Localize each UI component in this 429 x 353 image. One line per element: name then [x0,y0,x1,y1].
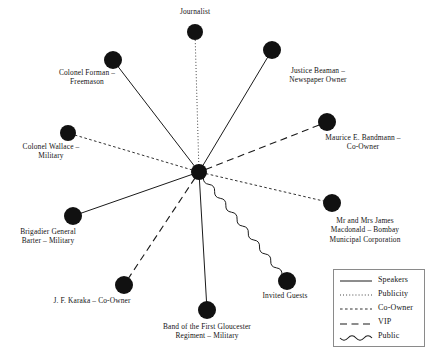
node-label-gloucester-band: Band of the First Gloucester Regiment – … [127,322,287,341]
node-label-colonel-wallace: Colonel Wallace – Military [0,142,104,161]
legend-label: Co-Owner [378,303,413,312]
node-maurice-bandmann[interactable] [318,113,336,131]
legend-line-sample-dotted [339,287,373,299]
network-diagram: JournalistColonel Forman – FreemasonJust… [0,0,429,353]
node-colonel-forman[interactable] [104,51,122,69]
legend-line-sample-solid [339,273,373,285]
legend-label: VIP [378,317,391,326]
edge-gloucester-band [199,179,206,302]
node-colonel-wallace[interactable] [60,125,76,141]
edge-journalist [195,39,199,165]
node-label-maurice-bandmann: Maurice E. Bandmann – Co-Owner [297,133,429,152]
legend-label: Public [378,331,399,340]
legend-line-sample-dashed-fine [339,301,373,313]
node-justice-beaman[interactable] [263,41,281,59]
legend-row-publicity: Publicity [334,286,424,300]
node-label-brigadier-barter: Brigadier General Barter – Military [0,227,101,246]
node-label-jf-karaka: J. F. Karaka – Co-Owner [17,296,167,305]
node-hub[interactable] [191,164,207,180]
node-brigadier-barter[interactable] [64,207,82,225]
node-label-invited-guests: Invited Guests [230,291,340,300]
node-label-james-macdonald: Mr and Mrs James Macdonald – Bombay Muni… [301,216,429,244]
legend-row-co-owner: Co-Owner [334,300,424,314]
legend-row-public: Public [334,329,424,343]
node-journalist[interactable] [187,24,203,40]
node-label-colonel-forman: Colonel Forman – Freemason [32,68,142,87]
node-jf-karaka[interactable] [115,276,133,294]
legend-row-vip: VIP [334,315,424,329]
legend-line-sample-dashed-long [339,316,373,328]
legend-line-sample-wavy [339,330,373,342]
node-label-journalist: Journalist [135,7,255,16]
legend-row-speakers: Speakers [334,272,424,286]
legend-label: Publicity [378,289,408,298]
node-invited-guests[interactable] [278,272,296,290]
node-label-justice-beaman: Justice Beaman – Newspaper Owner [258,66,378,85]
legend-label: Speakers [378,275,408,284]
legend: SpeakersPublicityCo-OwnerVIPPublic [333,269,425,347]
edge-james-macdonald [206,174,324,202]
edge-invited-guests [203,177,282,274]
node-gloucester-band[interactable] [198,301,216,319]
node-james-macdonald[interactable] [323,194,341,212]
